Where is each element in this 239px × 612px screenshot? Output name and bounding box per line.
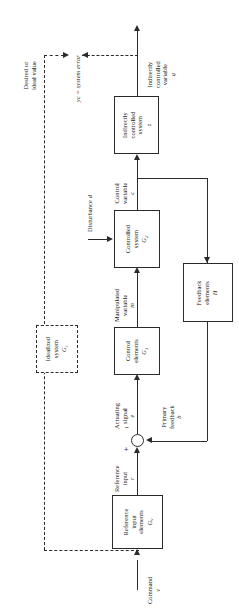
cs-line2: system bbox=[132, 230, 139, 248]
block-idealized-system[interactable]: Idealized system Gi bbox=[36, 325, 78, 373]
mv-symbol: m bbox=[128, 303, 135, 308]
cv-symbol: c bbox=[128, 192, 135, 195]
label-primary-feedback: Primary feedback b bbox=[160, 405, 183, 429]
block-controlled-system[interactable]: Controlled system G2 bbox=[114, 210, 160, 268]
riel-line2: input bbox=[129, 515, 136, 529]
label-disturbance: Disturbance d bbox=[86, 195, 94, 232]
disturbance-arrowhead bbox=[107, 236, 113, 242]
control-variable-line bbox=[137, 160, 138, 210]
label-system-error: yc = system error bbox=[74, 55, 82, 102]
label-control-variable: Control variable c bbox=[113, 183, 136, 204]
ics-line1: Indirectly bbox=[120, 112, 127, 138]
is-line2: system bbox=[52, 340, 59, 358]
ce-line1: Control bbox=[124, 341, 131, 361]
doiv-line2: ideal value bbox=[30, 61, 37, 90]
ri-line1: Reference bbox=[113, 465, 120, 492]
pf-symbol: b bbox=[175, 415, 182, 418]
ideal-value-dashed-spine bbox=[44, 55, 45, 550]
riel-line3: elements bbox=[136, 510, 143, 534]
cmd-label: Command bbox=[146, 577, 153, 604]
block-control-elements-label: Control elements G1 bbox=[124, 339, 149, 363]
cv-line2: variable bbox=[121, 183, 128, 204]
pf-line2: feedback bbox=[168, 405, 175, 429]
indirectly-controlled-variable-output-line bbox=[137, 30, 138, 58]
reference-input-line bbox=[137, 452, 138, 495]
command-signal-line bbox=[137, 560, 138, 590]
ics-line3: system bbox=[135, 116, 142, 134]
fe-symbol: H bbox=[212, 280, 221, 305]
ce-symbol: G1 bbox=[141, 339, 150, 363]
indirectly-controlled-variable-line bbox=[137, 55, 138, 96]
cs-symbol: G2 bbox=[141, 225, 150, 253]
ri-line2: input bbox=[121, 472, 128, 486]
label-reference-input: Reference input r bbox=[113, 465, 136, 492]
cv-line1: Control bbox=[113, 183, 120, 203]
ideal-value-arrowhead bbox=[63, 52, 69, 58]
dist-symbol: d bbox=[86, 195, 93, 198]
fe-line1: Feedback bbox=[195, 280, 202, 305]
primary-feedback-arrowhead bbox=[146, 437, 152, 443]
block-feedback-elements[interactable]: Feedback elements H bbox=[183, 263, 233, 322]
ics-line2: controlled bbox=[128, 112, 135, 139]
pf-line1: Primary bbox=[160, 406, 167, 427]
as-symbol: e bbox=[128, 414, 135, 417]
ce-line2: elements bbox=[132, 339, 139, 363]
block-idealized-system-label: Idealized system Gi bbox=[44, 337, 69, 361]
feedback-tap-line bbox=[137, 178, 208, 179]
icv-symbol: q bbox=[169, 73, 176, 76]
mv-line2: variable bbox=[121, 295, 128, 316]
block-reference-input-elements-label: Reference input elements Gv bbox=[121, 509, 154, 536]
riel-symbol: Gv bbox=[145, 509, 154, 536]
actuating-signal-line bbox=[137, 380, 138, 434]
system-error-arrowhead bbox=[82, 52, 88, 58]
block-control-elements[interactable]: Control elements G1 bbox=[114, 327, 160, 375]
reference-input-arrowhead bbox=[134, 447, 140, 453]
as-line1: Actuating bbox=[113, 403, 120, 429]
fe-line2: elements bbox=[203, 281, 210, 305]
is-symbol: Gi bbox=[61, 337, 70, 361]
block-diagram-figure: Reference input elements Gv + − Control … bbox=[0, 0, 239, 612]
label-desired-or-ideal-value: Desired or ideal value bbox=[22, 61, 37, 90]
block-feedback-elements-label: Feedback elements H bbox=[195, 280, 220, 305]
icv-line3: variable bbox=[161, 64, 168, 85]
as-line2: signal bbox=[121, 408, 128, 424]
dist-label: Disturbance bbox=[86, 200, 93, 232]
label-actuating-signal: Actuating signal e bbox=[113, 403, 136, 429]
primary-feedback-line bbox=[150, 441, 207, 442]
command-arrowhead bbox=[134, 549, 140, 555]
cs-line1: Controlled bbox=[124, 225, 131, 253]
control-variable-arrowhead bbox=[134, 154, 140, 160]
label-indirectly-controlled-variable: Indirectly controlled variable q bbox=[146, 61, 177, 88]
doiv-line1: Desired or bbox=[22, 62, 29, 90]
icv-line1: Indirectly bbox=[146, 62, 153, 88]
mv-line1: Manipulated bbox=[113, 289, 120, 322]
feedback-down-line bbox=[207, 178, 208, 263]
block-controlled-system-label: Controlled system G2 bbox=[124, 225, 149, 253]
icv-line2: controlled bbox=[154, 61, 161, 88]
ri-symbol: r bbox=[128, 477, 135, 480]
ideal-value-to-error-dashed-line bbox=[44, 55, 64, 56]
manipulated-variable-line bbox=[137, 273, 138, 327]
summing-junction[interactable] bbox=[131, 434, 144, 447]
label-command: Command v bbox=[146, 577, 161, 604]
block-indirectly-controlled-system[interactable]: Indirectly controlled system z bbox=[114, 96, 159, 154]
block-indirectly-controlled-system-label: Indirectly controlled system z bbox=[120, 112, 153, 139]
indirect-variable-to-error-dashed-line bbox=[82, 55, 138, 56]
summing-junction-plus-sign: + bbox=[124, 446, 128, 454]
primary-feedback-down-line bbox=[207, 322, 208, 441]
label-manipulated-variable: Manipulated variable m bbox=[113, 289, 136, 322]
block-reference-input-elements[interactable]: Reference input elements Gv bbox=[112, 495, 163, 549]
cmd-symbol: v bbox=[154, 589, 161, 592]
command-dashed-branch bbox=[44, 550, 139, 551]
riel-line1: Reference bbox=[121, 509, 128, 536]
is-line1: Idealized bbox=[44, 337, 51, 361]
disturbance-line bbox=[88, 239, 108, 240]
ics-symbol: z bbox=[144, 112, 153, 139]
